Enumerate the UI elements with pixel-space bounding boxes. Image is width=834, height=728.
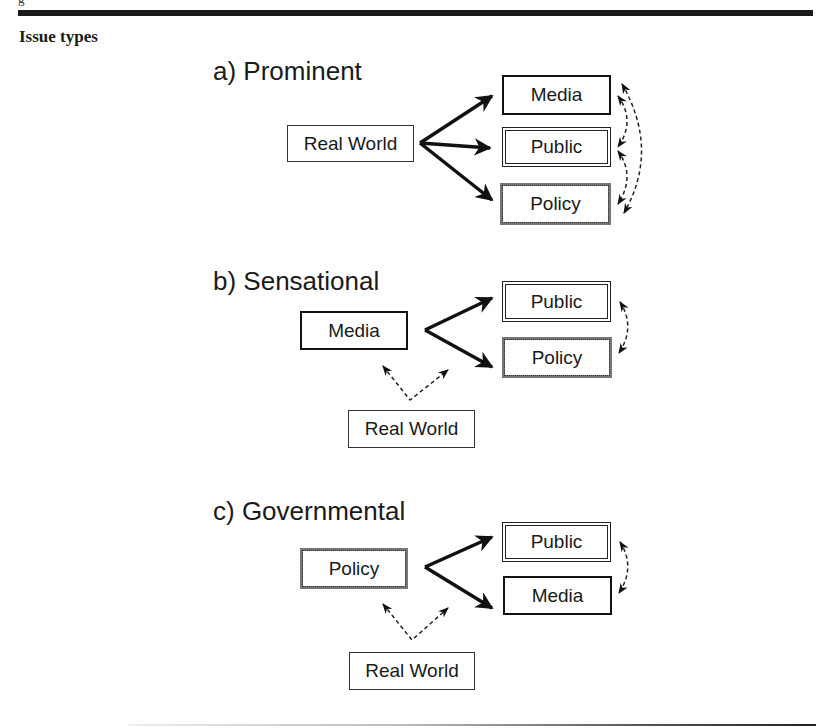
box-policy-a: Policy [500,183,611,225]
solid-arrows-b [425,298,492,367]
box-media-c: Media [503,576,612,615]
solid-arrows-a [420,96,492,200]
section-title: Issue types [19,27,98,47]
clipped-caption: g [18,0,25,7]
top-rule [18,10,813,16]
box-public-c: Public [502,522,611,562]
arrow-layer [0,0,834,728]
box-real-world-b: Real World [348,410,475,448]
heading-prominent: a) Prominent [213,56,362,87]
box-policy-b: Policy [502,337,612,378]
heading-sensational: b) Sensational [213,266,379,297]
box-real-world-c: Real World [349,652,475,690]
bottom-rule [128,724,816,726]
box-public-b: Public [502,281,611,322]
dashed-feedback-a [618,84,642,213]
box-media-a: Media [502,75,611,115]
solid-arrows-c [425,537,492,608]
box-real-world-a: Real World [287,125,414,162]
heading-governmental: c) Governmental [213,496,405,527]
box-policy-c: Policy [300,548,408,589]
box-media-b: Media [300,311,408,350]
box-public-a: Public [502,127,611,167]
